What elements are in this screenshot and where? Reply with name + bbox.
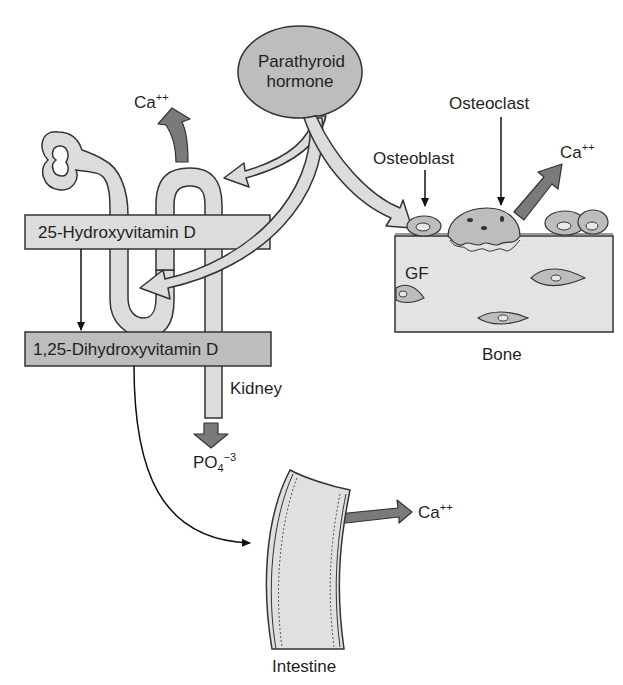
phosphate-subscript: 4 [218, 462, 224, 474]
bone-label: Bone [482, 346, 522, 363]
ca-intestine-base: Ca [418, 503, 440, 522]
phosphate-label: PO4−3 [193, 452, 236, 474]
intestine-segment [266, 470, 350, 649]
vitd125-label: 1,25-Dihydroxyvitamin D [33, 341, 218, 358]
ca-intestine-charge: ++ [440, 501, 453, 513]
osteoblast-label: Osteoblast [373, 150, 454, 167]
ca-kidney-label: Ca++ [134, 92, 169, 111]
phosphate-charge: −3 [224, 451, 237, 463]
pth-label-line1: Parathyroid [258, 52, 342, 72]
osteoclast-label: Osteoclast [449, 95, 529, 112]
pth-label: Parathyroid hormone [258, 52, 342, 92]
gf-label: GF [405, 265, 429, 282]
phosphate-base: PO [193, 453, 218, 472]
kidney-label: Kidney [230, 380, 282, 397]
ca-bone-base: Ca [560, 143, 582, 162]
ca-intestine-label: Ca++ [418, 502, 453, 521]
ca-kidney-base: Ca [134, 93, 156, 112]
vitd25-label: 25-Hydroxyvitamin D [38, 224, 196, 241]
ca-bone-label: Ca++ [560, 142, 595, 161]
pth-label-line2: hormone [258, 72, 342, 92]
ca-bone-charge: ++ [582, 141, 595, 153]
ca-kidney-charge: ++ [156, 91, 169, 103]
intestine-label: Intestine [272, 658, 336, 675]
